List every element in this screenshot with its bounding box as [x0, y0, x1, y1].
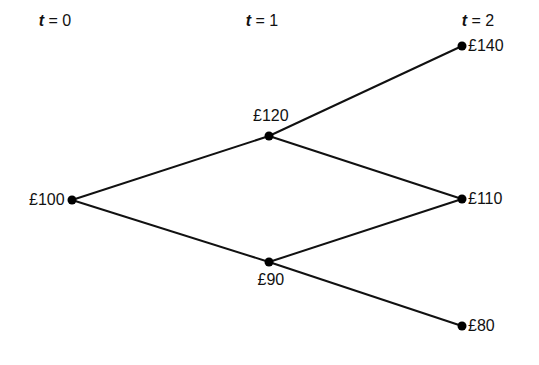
node-label-100: £100 [29, 192, 65, 208]
node-label-90: £90 [258, 272, 285, 288]
node-dot-uu2 [458, 42, 467, 51]
node-label-110: £110 [468, 191, 502, 207]
edge-d1-dd2 [269, 262, 462, 326]
node-label-120: £120 [253, 108, 289, 124]
node-dot-n0 [68, 196, 77, 205]
time-header-t0: t = 0 [39, 12, 71, 30]
edge-n0-u1 [72, 136, 269, 200]
edge-u1-ud2 [269, 136, 462, 199]
edge-u1-uu2 [269, 46, 462, 136]
time-header-t1: t = 1 [246, 12, 278, 30]
node-dot-ud2 [458, 195, 467, 204]
binomial-tree-canvas [0, 0, 539, 365]
edge-d1-ud2 [269, 199, 462, 262]
node-dot-d1 [265, 258, 274, 267]
node-dot-u1 [265, 132, 274, 141]
edge-n0-d1 [72, 200, 269, 262]
node-label-80: £80 [468, 318, 495, 334]
time-header-t2: t = 2 [462, 12, 494, 30]
node-dot-dd2 [458, 322, 467, 331]
node-label-140: £140 [468, 38, 504, 54]
